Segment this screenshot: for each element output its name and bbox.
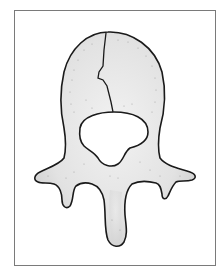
vertebra-illustration <box>0 0 224 280</box>
